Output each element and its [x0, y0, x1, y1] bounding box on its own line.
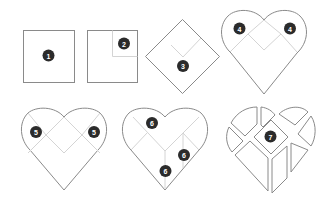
step-badge-2: 2 [118, 38, 130, 50]
svg-text:4: 4 [288, 26, 292, 33]
svg-text:5: 5 [92, 129, 96, 136]
svg-text:5: 5 [34, 129, 38, 136]
diagram-canvas: 1 2 3 4 4 [0, 0, 334, 205]
svg-text:6: 6 [150, 120, 154, 127]
svg-text:6: 6 [164, 168, 168, 175]
step-badge-1: 1 [43, 50, 55, 62]
svg-text:3: 3 [181, 63, 185, 70]
step-2-square: 2 [88, 31, 138, 83]
step-3-diamond: 3 [146, 20, 220, 94]
step-5-heart: 5 5 [21, 108, 106, 190]
step-badge-7: 7 [265, 131, 277, 143]
svg-text:1: 1 [47, 53, 51, 60]
svg-text:7: 7 [269, 134, 273, 141]
step-badge-5b: 5 [88, 126, 100, 138]
step-badge-6b: 6 [178, 149, 190, 161]
step-badge-3: 3 [177, 60, 189, 72]
step-badge-4a: 4 [234, 23, 246, 35]
step-6-heart: 6 6 6 [122, 108, 207, 190]
step-1-square: 1 [24, 31, 75, 83]
step-7-heart-puzzle: 7 [227, 107, 316, 193]
step-badge-4b: 4 [284, 23, 296, 35]
step-badge-6a: 6 [146, 117, 158, 129]
step-badge-6c: 6 [160, 165, 172, 177]
svg-text:6: 6 [182, 152, 186, 159]
step-4-heart: 4 4 [222, 10, 307, 94]
svg-text:2: 2 [122, 41, 126, 48]
svg-text:4: 4 [238, 26, 242, 33]
step-badge-5a: 5 [30, 126, 42, 138]
